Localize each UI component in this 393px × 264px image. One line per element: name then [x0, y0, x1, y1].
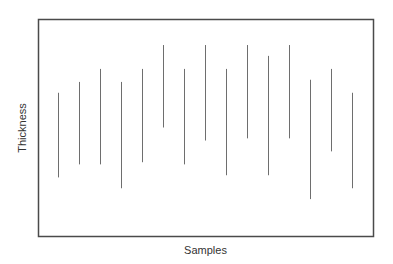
y-axis-label-text: Thickness [16, 103, 28, 153]
y-axis-label: Thickness [2, 88, 42, 168]
range-lines [59, 45, 353, 199]
range-chart [0, 0, 393, 264]
x-axis-label: Samples [38, 244, 373, 256]
